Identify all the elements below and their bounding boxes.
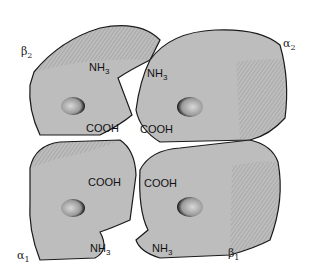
nh3-label-alpha2: NH3: [147, 68, 167, 82]
cooh-label-beta2: COOH: [86, 123, 119, 134]
subunit-illustration: [0, 0, 312, 274]
alpha1-subunit: [30, 140, 136, 260]
cooh-label-alpha1: COOH: [88, 177, 121, 188]
subunit-label-alpha2: α2: [283, 38, 296, 52]
heme-pocket-icon: [177, 97, 203, 117]
hemoglobin-diagram: β2 α2 α1 β1 NH3 NH3 COOH COOH COOH COOH …: [0, 0, 312, 274]
heme-pocket-icon: [61, 97, 85, 115]
subunit-label-beta1: β1: [228, 248, 239, 262]
subunit-label-alpha1: α1: [17, 250, 30, 264]
beta1-subunit: [136, 140, 280, 258]
heme-pocket-icon: [177, 197, 203, 217]
heme-pocket-icon: [61, 199, 85, 217]
cooh-label-alpha2: COOH: [140, 124, 173, 135]
nh3-label-beta1: NH3: [152, 243, 172, 257]
cooh-label-beta1: COOH: [144, 178, 177, 189]
nh3-label-beta2: NH3: [89, 62, 109, 76]
subunit-label-beta2: β2: [21, 46, 32, 60]
nh3-label-alpha1: NH3: [90, 243, 110, 257]
